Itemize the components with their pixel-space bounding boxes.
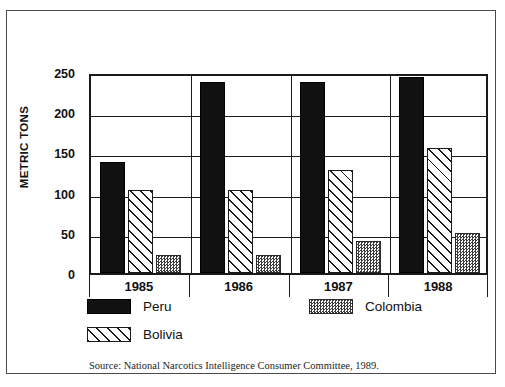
y-tick-label-0: 0 (35, 270, 75, 280)
legend-swatch-bolivia (87, 327, 131, 342)
bar-bolivia-1987 (328, 170, 353, 273)
legend-item-peru: Peru (87, 299, 172, 314)
y-tick-label-250: 250 (35, 69, 75, 79)
x-tick-label-1986: 1986 (189, 279, 289, 295)
y-tick-label-50: 50 (35, 230, 75, 240)
bar-colombia-1987 (356, 241, 381, 273)
page-canvas: METRIC TONS 050100150200250 198519861987… (0, 0, 505, 387)
bar-bolivia-1985 (128, 190, 153, 273)
plot-area (89, 74, 488, 275)
group-divider-3 (390, 76, 391, 273)
legend-label-colombia: Colombia (365, 299, 422, 314)
figure-frame: METRIC TONS 050100150200250 198519861987… (6, 10, 496, 374)
bar-bolivia-1988 (427, 148, 452, 273)
y-tick-label-200: 200 (35, 109, 75, 119)
gridline-200 (91, 116, 486, 117)
bar-colombia-1988 (455, 233, 480, 273)
chart-legend: PeruColombiaBolivia (87, 299, 417, 347)
x-axis-band: 1985198619871988 (89, 275, 488, 297)
bar-peru-1987 (300, 82, 325, 273)
bar-colombia-1985 (156, 255, 181, 273)
bar-peru-1988 (399, 77, 424, 273)
legend-swatch-colombia (309, 299, 353, 314)
group-divider-1 (191, 76, 192, 273)
group-divider-2 (291, 76, 292, 273)
bar-bolivia-1986 (228, 190, 253, 273)
page-header-artifact (150, 1, 365, 7)
source-note: Source: National Narcotics Intelligence … (89, 360, 379, 371)
legend-swatch-peru (87, 299, 131, 314)
legend-item-colombia: Colombia (309, 299, 422, 314)
legend-label-peru: Peru (143, 299, 172, 314)
y-axis-title: METRIC TONS (18, 97, 30, 197)
x-tick-label-1985: 1985 (89, 279, 189, 295)
legend-label-bolivia: Bolivia (143, 327, 183, 342)
y-tick-label-150: 150 (35, 149, 75, 159)
bar-colombia-1986 (256, 255, 281, 273)
x-tick-label-1988: 1988 (388, 279, 488, 295)
x-tick-label-1987: 1987 (289, 279, 389, 295)
y-tick-label-100: 100 (35, 190, 75, 200)
bar-peru-1985 (100, 162, 125, 273)
bar-peru-1986 (200, 82, 225, 273)
legend-item-bolivia: Bolivia (87, 327, 183, 342)
